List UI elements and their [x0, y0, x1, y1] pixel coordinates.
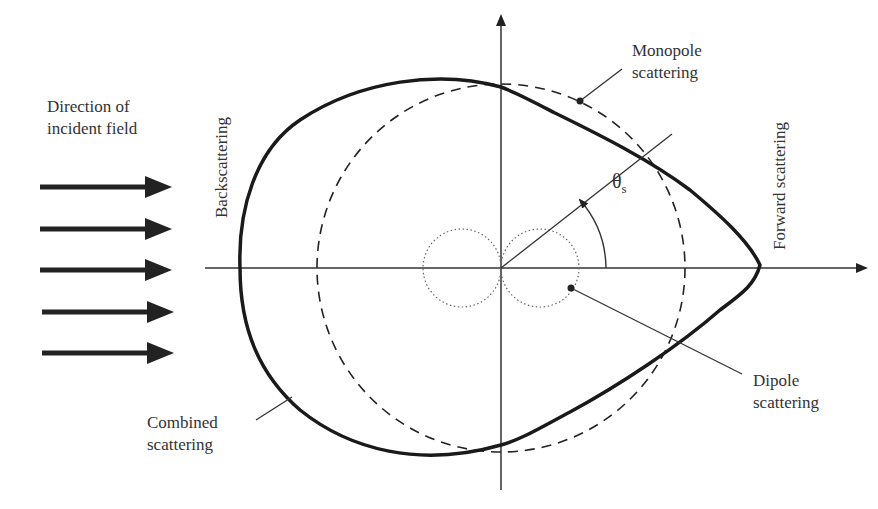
monopole-leader-dot	[577, 98, 584, 105]
radius-vector	[501, 134, 672, 268]
incident-arrow-icon	[42, 301, 174, 323]
backscattering-label: Backscattering	[212, 117, 232, 218]
angle-symbol: θ	[612, 170, 622, 192]
monopole-leader	[580, 69, 622, 101]
combined-pattern	[240, 79, 760, 455]
scattering-diagram: Direction of incident field Backscatteri…	[0, 0, 878, 509]
combined-leader	[256, 397, 292, 420]
combined-label: Combined scattering	[147, 412, 218, 456]
incident-arrow-icon	[40, 259, 172, 281]
angle-label: θs	[612, 170, 627, 200]
incident-arrows	[40, 176, 174, 364]
dipole-leader-dot	[568, 285, 575, 292]
angle-arc	[580, 200, 606, 268]
dipole-label-line1: Dipole	[753, 370, 819, 392]
monopole-label-line2: scattering	[632, 62, 702, 84]
dipole-label: Dipole scattering	[753, 370, 819, 414]
combined-label-line2: scattering	[147, 434, 218, 456]
incident-label-line2: incident field	[47, 118, 137, 140]
incident-label: Direction of incident field	[47, 96, 137, 140]
incident-arrow-icon	[42, 342, 174, 364]
monopole-label-line1: Monopole	[632, 40, 702, 62]
dipole-leader	[571, 288, 742, 374]
angle-subscript: s	[622, 181, 627, 196]
diagram-canvas	[0, 0, 878, 509]
forward-scattering-label: Forward scattering	[770, 122, 790, 250]
combined-label-line1: Combined	[147, 412, 218, 434]
dipole-label-line2: scattering	[753, 392, 819, 414]
incident-label-line1: Direction of	[47, 96, 137, 118]
monopole-label: Monopole scattering	[632, 40, 702, 84]
incident-arrow-icon	[40, 218, 172, 240]
incident-arrow-icon	[40, 176, 172, 198]
